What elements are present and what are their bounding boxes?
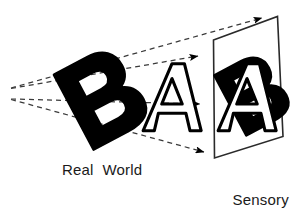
object-letter-b — [54, 43, 153, 149]
object-letter-a — [143, 64, 201, 131]
label-sensory-surface-line1: Sensory — [232, 191, 288, 208]
figure-canvas: Real World Sensory Surface — [0, 0, 300, 222]
label-sensory-surface: Sensory Surface — [215, 174, 289, 222]
label-real-world: Real World — [62, 161, 142, 178]
